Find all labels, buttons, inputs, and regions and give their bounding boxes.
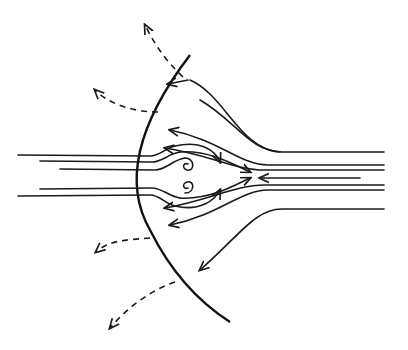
outgoing-streamlines bbox=[165, 80, 384, 270]
vortex-pair bbox=[184, 158, 193, 193]
incoming-streamlines bbox=[18, 146, 185, 206]
flow-diagram bbox=[0, 0, 408, 350]
dashed-escape-arrows bbox=[95, 25, 183, 328]
